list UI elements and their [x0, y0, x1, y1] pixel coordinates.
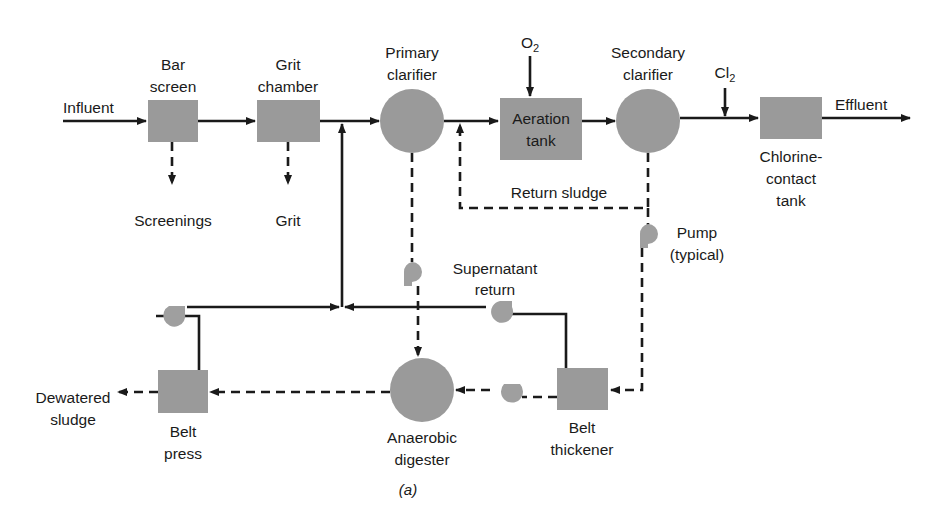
bar-screen-unit — [148, 100, 198, 142]
pump-icon-typical — [640, 224, 658, 248]
return-sludge-label: Return sludge — [511, 184, 608, 201]
effluent-label: Effluent — [835, 96, 888, 113]
supernatant-label-1: Supernatant — [453, 260, 538, 277]
pump-icon-thickened-sludge — [501, 384, 523, 403]
belt-press-label-2: press — [164, 445, 202, 462]
primary-clarifier-label-1: Primary — [385, 44, 439, 61]
aeration-tank-label-2: tank — [526, 132, 556, 149]
pump-icon-supernatant — [491, 301, 513, 323]
belt-thickener-unit — [557, 368, 608, 410]
chlorine-contact-label-3: tank — [776, 192, 806, 209]
anaerobic-digester-label-2: digester — [394, 451, 449, 468]
oxygen-label: O2 — [521, 34, 539, 54]
grit-chamber-unit — [257, 100, 320, 142]
primary-clarifier-unit — [380, 89, 444, 153]
figure-caption: (a) — [399, 481, 417, 498]
bar-screen-label-2: screen — [150, 78, 197, 95]
belt-press-unit — [158, 370, 208, 413]
pump-icon-filtrate — [163, 306, 185, 327]
grit-chamber-label-1: Grit — [276, 56, 302, 73]
anaerobic-digester-unit — [390, 358, 454, 422]
pump-typical-label-1: Pump — [677, 224, 718, 241]
secondary-clarifier-label-2: clarifier — [623, 66, 673, 83]
supernatant-return-line — [512, 314, 566, 368]
grit-chamber-label-2: chamber — [258, 78, 318, 95]
belt-thickener-label-2: thickener — [551, 441, 614, 458]
grit-label: Grit — [276, 212, 302, 229]
dewatered-sludge-label-2: sludge — [50, 411, 96, 428]
bar-screen-label-1: Bar — [161, 56, 185, 73]
secondary-clarifier-unit — [616, 89, 680, 153]
screenings-label: Screenings — [134, 212, 212, 229]
process-flow-diagram: Influent Bar screen Grit chamber Primary… — [0, 0, 936, 529]
chlorine-label: Cl2 — [715, 64, 736, 84]
anaerobic-digester-label-1: Anaerobic — [387, 429, 457, 446]
aeration-tank-label-1: Aeration — [512, 110, 570, 127]
primary-clarifier-label-2: clarifier — [387, 66, 437, 83]
chlorine-contact-label-1: Chlorine- — [760, 148, 823, 165]
secondary-clarifier-label-1: Secondary — [611, 44, 685, 61]
influent-label: Influent — [63, 99, 115, 116]
dewatered-sludge-label-1: Dewatered — [36, 389, 111, 406]
pump-typical-label-2: (typical) — [670, 246, 724, 263]
chlorine-contact-label-2: contact — [766, 170, 817, 187]
supernatant-label-2: return — [475, 281, 516, 298]
belt-thickener-label-1: Belt — [569, 419, 596, 436]
waste-sludge-line-to-thickener — [611, 248, 642, 390]
aeration-tank-unit — [500, 98, 582, 160]
belt-press-label-1: Belt — [170, 423, 197, 440]
pump-icon-primary-sludge — [404, 262, 422, 286]
chlorine-contact-tank-unit — [760, 97, 822, 139]
